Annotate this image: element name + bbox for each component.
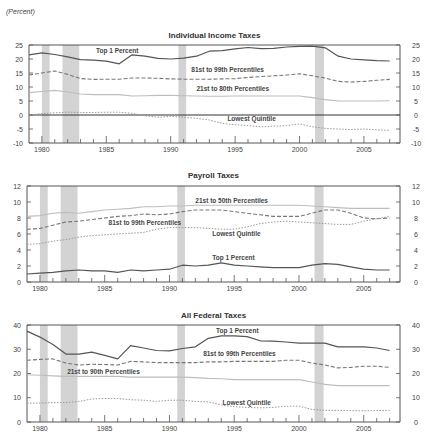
y-tick-label-left: 40 <box>13 322 21 329</box>
recession-bar <box>315 325 324 422</box>
y-tick-label-left: 0 <box>19 112 23 119</box>
x-tick-label: 1990 <box>162 425 178 432</box>
recession-bar <box>178 45 186 143</box>
chart-stack: Individual Income Taxes-10-10-5-50055101… <box>0 0 425 438</box>
y-tick-label-right: 2 <box>414 263 418 270</box>
x-tick-label: 2005 <box>356 146 372 153</box>
series-label-81st-to-99th-percentiles: 81st to 99th Percentiles <box>203 350 276 357</box>
x-tick-label: 2005 <box>356 425 372 432</box>
y-tick-label-left: 20 <box>15 56 23 63</box>
x-tick-label: 1980 <box>32 425 48 432</box>
y-tick-label-left: 15 <box>15 70 23 77</box>
y-tick-label-right: 6 <box>414 231 418 238</box>
y-tick-label-right: 10 <box>412 84 420 91</box>
y-tick-label-left: 2 <box>17 263 21 270</box>
panel-individual-income-taxes: Individual Income Taxes-10-10-5-50055101… <box>13 31 421 153</box>
series-label-21st-to-50th-percentiles: 21st to 50th Percentiles <box>195 197 268 204</box>
series-line-21st-to-50th-percentiles <box>27 205 390 216</box>
series-line-lowest-quintile <box>27 399 390 411</box>
series-label-lowest-quintile: Lowest Quintile <box>227 115 276 123</box>
y-tick-label-left: 8 <box>17 215 21 222</box>
y-tick-label-right: 0 <box>414 419 418 426</box>
series-label-21st-to-90th-percentiles: 21st to 90th Percentiles <box>67 368 140 375</box>
series-label-21st-to-80th-percentiles: 21st to 80th Percentiles <box>196 85 269 92</box>
x-tick-label: 1990 <box>163 146 179 153</box>
y-tick-label-right: 10 <box>412 199 420 206</box>
x-tick-label: 1995 <box>226 285 242 292</box>
series-label-lowest-quintile: Lowest Quintile <box>212 230 261 238</box>
y-tick-label-right: 12 <box>412 183 420 190</box>
y-tick-label-right: -5 <box>413 126 419 133</box>
series-label-top-1-percent: Top 1 Percent <box>216 327 259 335</box>
recession-bar <box>42 45 50 143</box>
y-tick-label-left: 0 <box>17 279 21 286</box>
x-tick-label: 2000 <box>292 146 308 153</box>
y-tick-label-right: 15 <box>412 70 420 77</box>
x-tick-label: 2005 <box>356 285 372 292</box>
x-tick-label: 1990 <box>162 285 178 292</box>
x-tick-label: 1995 <box>227 146 243 153</box>
series-line-top-1-percent <box>27 263 390 274</box>
y-tick-label-left: -5 <box>17 126 23 133</box>
recession-bar <box>61 186 78 282</box>
x-tick-label: 1985 <box>97 425 113 432</box>
y-tick-label-right: 30 <box>412 346 420 353</box>
series-label-lowest-quintile: Lowest Quintile <box>223 399 272 407</box>
series-line-21st-to-80th-percentiles <box>27 375 390 386</box>
y-tick-label-left: 6 <box>17 231 21 238</box>
y-tick-label-left: 10 <box>13 394 21 401</box>
y-tick-label-right: 0 <box>414 112 418 119</box>
y-tick-label-right: 25 <box>412 42 420 49</box>
y-tick-label-left: -10 <box>13 140 23 147</box>
recession-bar <box>62 45 79 143</box>
y-tick-label-right: -10 <box>411 140 421 147</box>
y-tick-label-right: 5 <box>414 98 418 105</box>
series-label-top-1-percent: Top 1 Percent <box>96 47 139 55</box>
recession-bar <box>40 186 48 282</box>
x-tick-label: 2000 <box>291 425 307 432</box>
y-tick-label-right: 20 <box>412 56 420 63</box>
y-tick-label-left: 12 <box>13 183 21 190</box>
recession-bar <box>177 325 185 422</box>
x-tick-label: 1995 <box>226 425 242 432</box>
y-tick-label-right: 8 <box>414 215 418 222</box>
y-tick-label-left: 30 <box>13 346 21 353</box>
y-tick-label-left: 10 <box>13 199 21 206</box>
panel-title: Individual Income Taxes <box>169 31 261 40</box>
series-line-81st-to-99th-percentiles <box>27 359 390 368</box>
recession-bar <box>315 186 324 282</box>
y-tick-label-right: 40 <box>412 322 420 329</box>
y-tick-label-left: 5 <box>19 98 23 105</box>
panel-title: Payroll Taxes <box>188 171 240 180</box>
y-tick-label-right: 20 <box>412 370 420 377</box>
y-tick-label-right: 4 <box>414 247 418 254</box>
y-tick-label-right: 0 <box>414 279 418 286</box>
series-label-top-1-percent: Top 1 Percent <box>212 254 255 262</box>
y-tick-label-left: 20 <box>13 370 21 377</box>
panel-title: All Federal Taxes <box>181 311 247 320</box>
y-tick-label-left: 4 <box>17 247 21 254</box>
series-label-81st-to-99th-percentiles: 81st to 99th Percentiles <box>191 66 264 73</box>
x-tick-label: 1985 <box>97 285 113 292</box>
y-tick-label-left: 0 <box>17 419 21 426</box>
y-tick-label-right: 10 <box>412 394 420 401</box>
panel-all-federal-taxes: All Federal Taxes00101020203030404019801… <box>13 311 420 432</box>
x-tick-label: 1980 <box>34 146 50 153</box>
recession-bar <box>177 186 185 282</box>
x-tick-label: 1985 <box>99 146 115 153</box>
x-tick-label: 2000 <box>291 285 307 292</box>
series-line-top-1-percent <box>29 46 390 64</box>
y-tick-label-left: 25 <box>15 42 23 49</box>
series-label-81st-to-99th-percentiles: 81st to 99th Percentiles <box>109 219 182 226</box>
x-tick-label: 1980 <box>32 285 48 292</box>
y-tick-label-left: 10 <box>15 84 23 91</box>
panel-payroll-taxes: Payroll Taxes002244668810101212198019851… <box>13 171 420 292</box>
